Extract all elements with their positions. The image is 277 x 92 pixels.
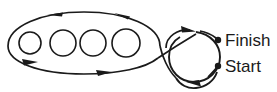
obstacle-1 xyxy=(19,32,41,54)
arrowhead-top-right xyxy=(114,13,130,20)
start-point-dot xyxy=(215,63,221,69)
obstacle-2 xyxy=(50,30,76,56)
obstacle-3 xyxy=(80,30,106,56)
finish-label: Finish xyxy=(225,31,270,50)
ellipse-top-arc xyxy=(8,12,160,46)
arrowhead-bottom-left xyxy=(22,59,38,66)
path-diagram: Finish Start xyxy=(0,0,277,92)
finish-point-dot xyxy=(215,37,221,43)
start-label: Start xyxy=(225,57,261,76)
loop-main-arc xyxy=(169,32,220,82)
diagram-canvas: Finish Start xyxy=(0,0,277,92)
obstacle-4 xyxy=(112,29,140,57)
arrowhead-loop-top xyxy=(181,26,196,33)
ellipse-to-loop-connector xyxy=(158,34,196,58)
